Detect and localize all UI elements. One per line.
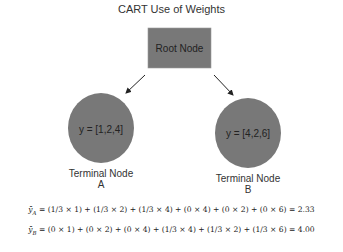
edge-root-to-a xyxy=(126,75,145,93)
equation-a-rhs: = (1/3 × 1) + (1/3 × 2) + (1/3 × 4) + (0… xyxy=(37,205,315,214)
equation-b: ȳB = (0 × 1) + (0 × 2) + (0 × 4) + (1/3 … xyxy=(0,225,343,236)
terminal-node-a-content: y = [1,2,4] xyxy=(79,124,123,135)
terminal-node-a-name: Terminal Node xyxy=(51,168,151,179)
terminal-node-a-letter: A xyxy=(51,179,151,190)
terminal-node-b-name: Terminal Node xyxy=(198,173,298,184)
terminal-node-b-content: y = [4,2,6] xyxy=(226,128,270,139)
edge-root-to-b xyxy=(214,75,233,95)
equation-b-rhs: = (0 × 1) + (0 × 2) + (0 × 4) + (1/3 × 4… xyxy=(37,225,315,234)
root-node-label: Root Node xyxy=(156,43,204,54)
terminal-node-b-caption: Terminal Node B xyxy=(198,173,298,195)
equation-a: ȳA = (1/3 × 1) + (1/3 × 2) + (1/3 × 4) +… xyxy=(0,205,343,216)
terminal-node-a-caption: Terminal Node A xyxy=(51,168,151,190)
terminal-node-b-letter: B xyxy=(198,184,298,195)
